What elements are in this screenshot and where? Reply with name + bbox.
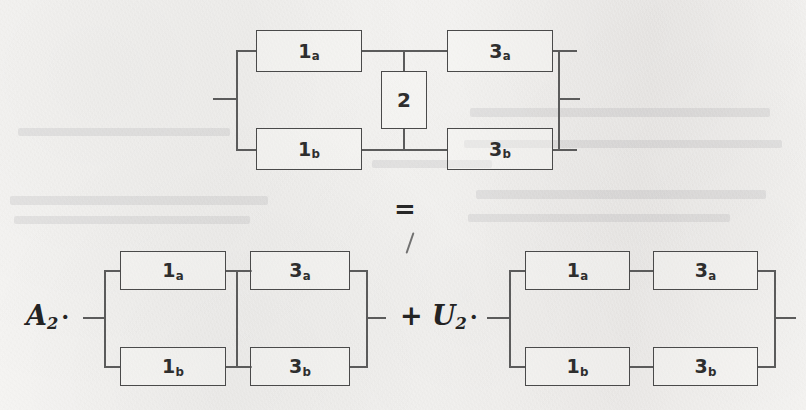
right-bus-rail (774, 270, 776, 368)
block-3a-label: 3a (695, 261, 717, 280)
wire-1a-to-3a (630, 270, 654, 272)
block-1b: 1b (525, 347, 630, 386)
left-bus-rail (509, 270, 511, 368)
wire-1b-to-3b (630, 366, 654, 368)
block-3b: 3b (653, 347, 758, 386)
right-terminal-lead (774, 317, 796, 319)
block-1a: 1a (525, 251, 630, 290)
parallel-series-network-diagram: 1a 1b 3a 3b (0, 0, 806, 410)
block-1a-label: 1a (567, 261, 589, 280)
left-terminal-lead (487, 317, 510, 319)
wire-left-to-1a (509, 270, 526, 272)
block-3a: 3a (653, 251, 758, 290)
wire-left-to-1b (509, 366, 526, 368)
figure-page: 1a 1b 2 3a 3b (0, 0, 806, 410)
block-1b-label: 1b (566, 357, 588, 376)
block-3b-label: 3b (694, 357, 716, 376)
